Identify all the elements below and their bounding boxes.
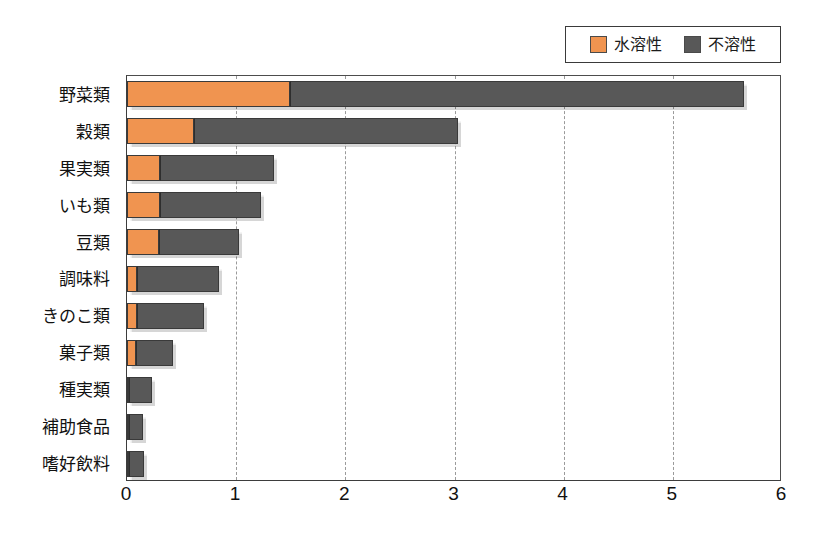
plot-area bbox=[126, 75, 781, 481]
chart-legend: 水溶性 不溶性 bbox=[565, 26, 781, 63]
y-axis-label: 野菜類 bbox=[59, 75, 118, 112]
bar-segment-soluble[interactable] bbox=[127, 229, 159, 255]
stacked-bar[interactable] bbox=[127, 451, 144, 477]
bar-segment-insoluble[interactable] bbox=[129, 377, 152, 403]
y-axis-label: 果実類 bbox=[59, 149, 118, 186]
bar-segment-soluble[interactable] bbox=[127, 340, 136, 366]
x-axis-tick-label: 3 bbox=[448, 484, 459, 503]
fiber-stacked-bar-chart: 水溶性 不溶性 野菜類穀類果実類いも類豆類調味料きのこ類菓子類種実類補助食品嗜好… bbox=[0, 0, 814, 545]
stacked-bar[interactable] bbox=[127, 340, 173, 366]
stacked-bar[interactable] bbox=[127, 81, 744, 107]
bar-group bbox=[127, 408, 143, 445]
bar-segment-soluble[interactable] bbox=[127, 155, 160, 181]
bar-segment-insoluble[interactable] bbox=[290, 81, 744, 107]
bar-segment-soluble[interactable] bbox=[127, 192, 160, 218]
stacked-bar[interactable] bbox=[127, 266, 219, 292]
stacked-bar[interactable] bbox=[127, 118, 458, 144]
bar-segment-insoluble[interactable] bbox=[159, 229, 240, 255]
stacked-bar[interactable] bbox=[127, 377, 152, 403]
legend-swatch-soluble bbox=[590, 36, 607, 53]
bar-series-group bbox=[127, 76, 780, 480]
y-axis-labels: 野菜類穀類果実類いも類豆類調味料きのこ類菓子類種実類補助食品嗜好飲料 bbox=[0, 75, 118, 481]
legend-label-soluble: 水溶性 bbox=[614, 37, 662, 53]
bar-group bbox=[127, 224, 239, 261]
bar-segment-insoluble[interactable] bbox=[160, 192, 262, 218]
bar-group bbox=[127, 113, 458, 150]
bar-group bbox=[127, 371, 152, 408]
x-axis-tick-label: 6 bbox=[776, 484, 787, 503]
bar-group bbox=[127, 334, 173, 371]
stacked-bar[interactable] bbox=[127, 155, 274, 181]
bar-segment-insoluble[interactable] bbox=[137, 303, 205, 329]
legend-swatch-insoluble bbox=[684, 36, 701, 53]
bar-segment-soluble[interactable] bbox=[127, 81, 290, 107]
y-axis-label: 嗜好飲料 bbox=[42, 444, 118, 481]
y-axis-label: 調味料 bbox=[59, 260, 118, 297]
bar-group bbox=[127, 150, 274, 187]
bar-group bbox=[127, 297, 204, 334]
x-axis-tick-label: 2 bbox=[339, 484, 350, 503]
legend-entry-insoluble: 不溶性 bbox=[684, 36, 756, 53]
bar-segment-insoluble[interactable] bbox=[129, 451, 144, 477]
y-axis-label: 豆類 bbox=[76, 223, 118, 260]
legend-label-insoluble: 不溶性 bbox=[708, 37, 756, 53]
x-axis-tick-label: 1 bbox=[230, 484, 241, 503]
y-axis-label: いも類 bbox=[59, 186, 118, 223]
bar-group bbox=[127, 445, 144, 482]
y-axis-label: 種実類 bbox=[59, 370, 118, 407]
y-axis-label: 穀類 bbox=[76, 112, 118, 149]
stacked-bar[interactable] bbox=[127, 414, 143, 440]
legend-entry-soluble: 水溶性 bbox=[590, 36, 662, 53]
bar-segment-soluble[interactable] bbox=[127, 266, 137, 292]
bar-segment-soluble[interactable] bbox=[127, 303, 137, 329]
x-axis-labels: 0123456 bbox=[126, 484, 781, 514]
bar-segment-insoluble[interactable] bbox=[129, 414, 143, 440]
y-axis-label: 補助食品 bbox=[42, 407, 118, 444]
y-axis-label: きのこ類 bbox=[42, 296, 118, 333]
bar-group bbox=[127, 76, 744, 113]
bar-segment-soluble[interactable] bbox=[127, 118, 194, 144]
y-axis-label: 菓子類 bbox=[59, 333, 118, 370]
x-axis-tick-label: 5 bbox=[667, 484, 678, 503]
bar-segment-insoluble[interactable] bbox=[137, 266, 219, 292]
x-axis-tick-label: 0 bbox=[121, 484, 132, 503]
bar-segment-insoluble[interactable] bbox=[136, 340, 173, 366]
bar-group bbox=[127, 261, 219, 298]
stacked-bar[interactable] bbox=[127, 192, 261, 218]
bar-segment-insoluble[interactable] bbox=[194, 118, 458, 144]
x-axis-tick-label: 4 bbox=[557, 484, 568, 503]
stacked-bar[interactable] bbox=[127, 303, 204, 329]
bar-group bbox=[127, 187, 261, 224]
stacked-bar[interactable] bbox=[127, 229, 239, 255]
bar-segment-insoluble[interactable] bbox=[160, 155, 275, 181]
